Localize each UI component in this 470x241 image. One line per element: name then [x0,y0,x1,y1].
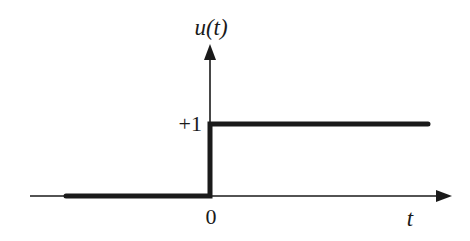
y-axis-arrow-icon [204,44,216,60]
origin-tick-label: 0 [206,204,217,229]
x-axis-label: t [407,206,414,231]
x-axis-arrow-icon [436,190,452,202]
unit-step-chart: u(t) t 0 +1 [0,0,470,241]
y-axis-label: u(t) [194,15,227,40]
step-function-line [66,124,428,196]
level-tick-label: +1 [179,111,202,136]
